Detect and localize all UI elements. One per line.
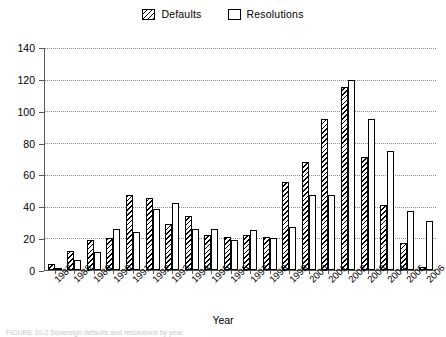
bar-defaults xyxy=(321,119,328,270)
bar-group xyxy=(280,48,300,270)
bar-resolutions xyxy=(407,211,414,270)
bar-group xyxy=(358,48,378,270)
bar-group xyxy=(416,48,436,270)
bar-resolutions xyxy=(426,221,433,270)
bar-group xyxy=(240,48,260,270)
x-label-cell: 2000 xyxy=(299,271,319,315)
bar-resolutions xyxy=(328,195,335,270)
bar-resolutions xyxy=(192,229,199,270)
bar-group xyxy=(338,48,358,270)
bar-groups xyxy=(45,48,436,270)
plot-area xyxy=(44,48,436,271)
y-axis: 020406080100120140 xyxy=(0,48,44,271)
y-axis-tick-label: 120 xyxy=(17,74,35,86)
x-label-cell: 2002 xyxy=(338,271,358,315)
bar-resolutions xyxy=(113,229,120,270)
bar-resolutions xyxy=(153,209,160,270)
x-label-cell: 1999 xyxy=(279,271,299,315)
x-label-cell: 1989 xyxy=(83,271,103,315)
y-axis-tick-label: 20 xyxy=(23,233,35,245)
bar-resolutions xyxy=(172,203,179,270)
x-label-cell: 1996 xyxy=(220,271,240,315)
bar-defaults xyxy=(341,87,348,270)
bar-group xyxy=(123,48,143,270)
y-axis-tick-label: 0 xyxy=(29,265,35,277)
bar-resolutions xyxy=(368,119,375,270)
x-label-cell: 1988 xyxy=(64,271,84,315)
x-axis-title: Year xyxy=(0,314,446,326)
bar-resolutions xyxy=(250,230,257,270)
bar-resolutions xyxy=(387,151,394,270)
y-axis-tick-label: 60 xyxy=(23,169,35,181)
bar-defaults xyxy=(302,162,309,270)
bar-group xyxy=(104,48,124,270)
bar-group xyxy=(319,48,339,270)
x-label-cell: 2001 xyxy=(318,271,338,315)
x-label-cell: 1997 xyxy=(240,271,260,315)
bar-resolutions xyxy=(133,232,140,270)
bar-group xyxy=(221,48,241,270)
y-axis-tick-label: 140 xyxy=(17,42,35,54)
x-label-cell: 2004 xyxy=(377,271,397,315)
chart-legend: Defaults Resolutions xyxy=(0,8,446,20)
bar-group xyxy=(260,48,280,270)
bar-defaults xyxy=(126,195,133,270)
hatched-square-icon xyxy=(142,9,155,20)
x-axis-labels: 1987198819891990199119921993199419951996… xyxy=(44,271,436,315)
bar-defaults xyxy=(380,205,387,270)
x-label-cell: 1995 xyxy=(201,271,221,315)
y-axis-tick-label: 40 xyxy=(23,201,35,213)
bar-group xyxy=(397,48,417,270)
bar-group xyxy=(143,48,163,270)
bar-resolutions xyxy=(211,229,218,270)
x-label-cell: 2006 xyxy=(416,271,436,315)
x-label-cell: 1991 xyxy=(122,271,142,315)
legend-item-defaults: Defaults xyxy=(142,8,201,20)
x-label-cell: 1998 xyxy=(260,271,280,315)
bar-group xyxy=(182,48,202,270)
x-label-cell: 1993 xyxy=(162,271,182,315)
legend-item-resolutions: Resolutions xyxy=(228,8,304,20)
legend-label-resolutions: Resolutions xyxy=(247,8,304,20)
bar-resolutions xyxy=(270,238,277,270)
bar-chart: Defaults Resolutions 020406080100120140 … xyxy=(0,0,446,337)
bar-group xyxy=(84,48,104,270)
x-label-cell: 1990 xyxy=(103,271,123,315)
bar-defaults xyxy=(146,198,153,270)
x-label-cell: 1994 xyxy=(181,271,201,315)
x-label-cell: 1992 xyxy=(142,271,162,315)
empty-square-icon xyxy=(228,9,241,20)
y-axis-tick-label: 80 xyxy=(23,138,35,150)
bar-resolutions xyxy=(289,227,296,270)
bar-resolutions xyxy=(231,240,238,270)
bar-resolutions xyxy=(348,80,355,270)
bar-group xyxy=(299,48,319,270)
x-label-cell: 2003 xyxy=(358,271,378,315)
bar-group xyxy=(377,48,397,270)
bar-defaults xyxy=(361,157,368,270)
bar-defaults xyxy=(282,182,289,270)
bar-group xyxy=(65,48,85,270)
figure-caption: FIGURE 10-2 Sovereign defaults and resol… xyxy=(6,329,440,337)
bar-resolutions xyxy=(309,195,316,270)
bar-defaults xyxy=(185,216,192,270)
bar-group xyxy=(162,48,182,270)
bar-group xyxy=(45,48,65,270)
y-axis-tick-label: 100 xyxy=(17,106,35,118)
bar-group xyxy=(201,48,221,270)
legend-label-defaults: Defaults xyxy=(161,8,201,20)
bar-defaults xyxy=(48,264,55,270)
x-label-cell: 2005 xyxy=(397,271,417,315)
x-label-cell: 1987 xyxy=(44,271,64,315)
